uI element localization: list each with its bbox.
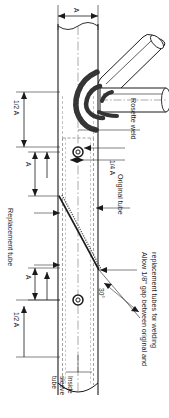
label-inside-sleeve-line-2: sleeve [58,376,65,395]
drawing-canvas: A 1/2 A Rosette weld 1/4 A A Original tu… [0,0,169,418]
dimension-label-half-a-top: 1/2 A [12,100,19,115]
branch-tube-upper-diagonal [98,33,166,93]
dimension-half-a-bottom [16,300,60,357]
dimension-a-upper [28,152,60,196]
dimension-label-half-a-bottom: 1/2 A [12,312,19,327]
dimension-half-a-top [16,92,60,147]
leader-replacement-tube [34,210,60,268]
dimension-label-a-lower: A [24,275,31,279]
label-replacement-tube: Replacement tube [6,208,14,266]
leader-inside-sleeve-tube [66,355,92,372]
dimension-label-top-a: A [72,8,79,12]
label-inside-sleeve-line-3: tube [50,376,57,389]
label-original-tube: Original tube [116,174,124,215]
dimension-label-quarter-a: 1/4 A [108,160,115,175]
rosette-weld-lower [73,295,83,305]
note-gap-line-1: Allow 1/8" gap between original and [140,252,148,366]
label-inside-sleeve-line-1: Inside [66,376,73,394]
note-gap-line-2: replacement tubes for welding [150,252,158,348]
dimension-a-lower [28,268,60,300]
label-rosette-weld: Rosette weld [129,98,137,140]
dimension-label-angle: 30° [97,288,104,298]
dimension-label-a-upper: A [24,162,31,166]
leader-gap-note [100,267,139,312]
main-tube-outline [58,23,98,396]
rosette-weld-upper [73,147,83,157]
scarf-cut-diagonal [59,195,140,318]
